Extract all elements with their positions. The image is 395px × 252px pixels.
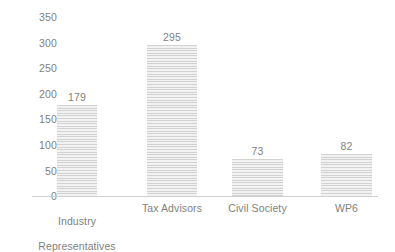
category-label-wp6: WP6 xyxy=(335,202,358,215)
y-axis-tick-300: 300 xyxy=(17,37,57,49)
y-axis-tick-100: 100 xyxy=(17,139,57,151)
y-axis-tick-50: 50 xyxy=(17,165,57,177)
y-axis-tick-250: 250 xyxy=(17,62,57,74)
category-label-line-2: Representatives xyxy=(38,240,115,252)
category-label-civil-society: Civil Society xyxy=(228,202,286,215)
bar-industry-representatives xyxy=(57,105,97,197)
y-axis-tick-200: 200 xyxy=(17,88,57,100)
value-label-industry-representatives: 179 xyxy=(68,91,86,103)
bar-civil-society xyxy=(232,159,283,196)
value-label-tax-advisors: 295 xyxy=(163,31,181,43)
category-label-tax-advisors: Tax Advisors xyxy=(142,202,202,215)
category-label-line-1: Industry xyxy=(58,215,96,227)
bar-tax-advisors xyxy=(147,45,197,196)
category-label-industry-representatives: Industry Representatives xyxy=(38,202,115,252)
value-label-civil-society: 73 xyxy=(251,145,263,157)
bar-wp6 xyxy=(321,154,372,196)
category-axis-line xyxy=(32,196,378,197)
value-label-wp6: 82 xyxy=(340,140,352,152)
y-axis-tick-350: 350 xyxy=(17,11,57,23)
y-axis-tick-150: 150 xyxy=(17,113,57,125)
